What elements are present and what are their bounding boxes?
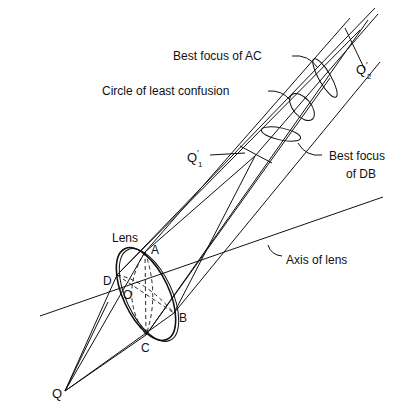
label-q1-prime: Q xyxy=(187,150,197,165)
label-q2-sub: 2 xyxy=(367,72,372,81)
label-q2-prime: Q xyxy=(356,62,366,77)
leader-ac xyxy=(292,56,318,68)
label-point-a: A xyxy=(151,243,159,257)
lens xyxy=(104,239,191,350)
label-best-focus-db-2: of DB xyxy=(346,167,376,181)
label-lens: Lens xyxy=(112,231,138,245)
label-point-b: B xyxy=(179,311,187,325)
leader-axis xyxy=(268,245,282,256)
leader-db xyxy=(298,143,322,155)
svg-text:′: ′ xyxy=(197,148,199,158)
astigmatism-diagram: Best focus of AC Circle of least confusi… xyxy=(0,0,418,419)
focal-line-q1 xyxy=(240,146,272,163)
label-q1-sub: 1 xyxy=(198,160,203,169)
label-point-q: Q xyxy=(52,386,62,401)
label-axis: Axis of lens xyxy=(286,253,347,267)
label-point-o: O xyxy=(123,288,132,302)
best-focus-db-ellipse xyxy=(260,124,302,144)
ray-bundle xyxy=(65,8,380,391)
label-point-c: C xyxy=(141,341,150,355)
label-best-focus-db-1: Best focus xyxy=(329,149,385,163)
label-circle-least-confusion: Circle of least confusion xyxy=(102,84,229,98)
label-point-d: D xyxy=(103,274,112,288)
circle-least-confusion xyxy=(285,89,319,125)
label-best-focus-ac: Best focus of AC xyxy=(173,49,262,63)
svg-text:′: ′ xyxy=(366,60,368,70)
leader-q1 xyxy=(210,153,245,155)
